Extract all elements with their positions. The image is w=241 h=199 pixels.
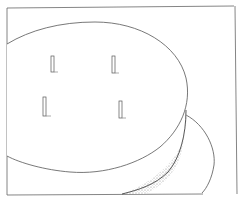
lower-disc-outline <box>186 115 214 193</box>
upper-disc-top <box>7 22 188 172</box>
illustration <box>0 0 241 199</box>
